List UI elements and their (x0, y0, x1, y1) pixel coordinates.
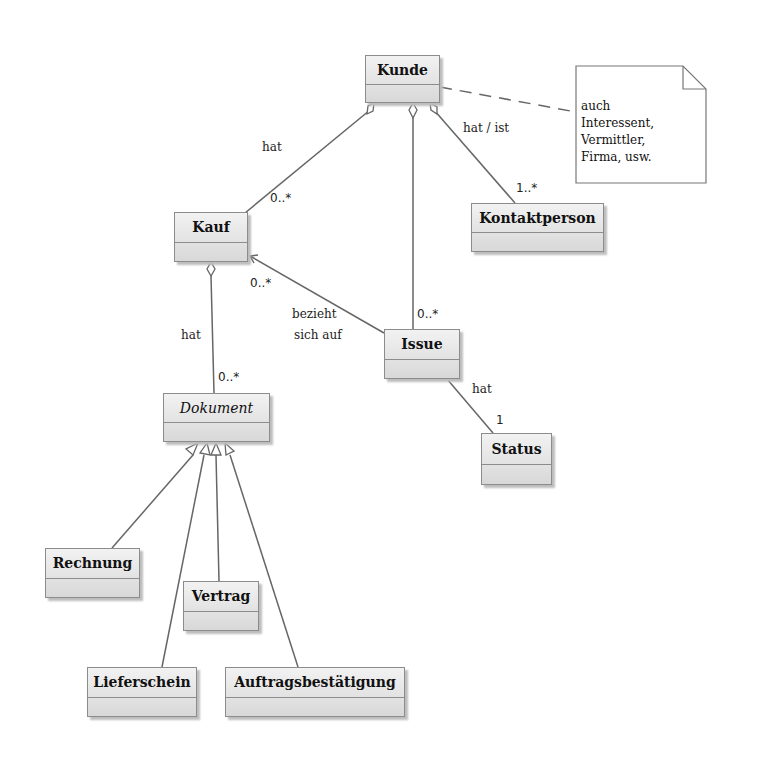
mult-status: 1 (496, 413, 504, 427)
mult-kontakt: 1..* (516, 181, 537, 195)
class-rechnung[interactable]: Rechnung (45, 548, 140, 598)
diamond-kauf-dokument (207, 262, 215, 276)
note-anchor (440, 87, 576, 112)
assoc-kunde-kauf (245, 110, 370, 213)
class-kunde[interactable]: Kunde (365, 55, 440, 103)
label-kauf-hat: hat (262, 140, 282, 154)
class-auftragsbestaetigung[interactable]: Auftragsbestätigung (225, 667, 405, 717)
class-name: Auftragsbestätigung (226, 668, 404, 698)
class-status[interactable]: Status (481, 433, 552, 485)
note: auch Interessent, Vermittler, Firma, usw… (581, 98, 654, 166)
diamond-kunde-kontakt (430, 103, 437, 114)
note-line: Firma, usw. (581, 149, 654, 166)
mult-kauf: 0..* (270, 191, 291, 205)
note-line: Interessent, (581, 115, 654, 132)
label-bezieht: bezieht (292, 307, 337, 321)
label-dok-hat: hat (181, 328, 201, 342)
class-name: Vertrag (184, 582, 258, 612)
class-name: Rechnung (46, 549, 139, 579)
class-name: Dokument (164, 394, 269, 423)
class-issue[interactable]: Issue (384, 329, 460, 379)
class-dokument[interactable]: Dokument (163, 393, 270, 442)
class-vertrag[interactable]: Vertrag (183, 581, 259, 631)
label-kontakt: hat / ist (463, 121, 509, 135)
class-name: Kontaktperson (472, 204, 603, 233)
mult-issue-kunde: 0..* (417, 307, 438, 321)
class-lieferschein[interactable]: Lieferschein (87, 667, 197, 717)
diamond-kunde-kauf (367, 103, 374, 114)
class-kontaktperson[interactable]: Kontaktperson (471, 203, 604, 252)
note-line: auch (581, 98, 654, 115)
class-name: Kunde (366, 56, 439, 85)
mult-dok: 0..* (218, 370, 239, 384)
class-name: Kauf (175, 213, 247, 243)
label-status-hat: hat (472, 382, 492, 396)
assoc-kauf-dokument (211, 276, 214, 393)
class-name: Status (482, 434, 551, 465)
class-name: Issue (385, 330, 459, 360)
class-name: Lieferschein (88, 668, 196, 698)
class-kauf[interactable]: Kauf (174, 212, 248, 262)
diamond-kunde-issue (409, 103, 417, 118)
note-line: Vermittler, (581, 132, 654, 149)
mult-issue-kauf: 0..* (250, 276, 271, 290)
assoc-issue-kauf (250, 256, 384, 333)
label-sich-auf: sich auf (294, 328, 342, 342)
